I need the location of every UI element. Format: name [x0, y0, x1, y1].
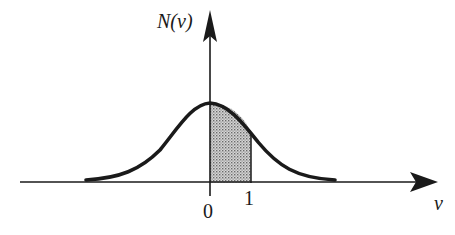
shaded-area-0-to-1	[210, 103, 251, 183]
x-axis-label: v	[434, 192, 443, 214]
tick-label-0: 0	[203, 200, 213, 222]
y-axis-label: N(v)	[156, 10, 193, 33]
normal-distribution-diagram: N(v) v 0 1	[0, 0, 455, 235]
tick-label-1: 1	[244, 187, 254, 209]
